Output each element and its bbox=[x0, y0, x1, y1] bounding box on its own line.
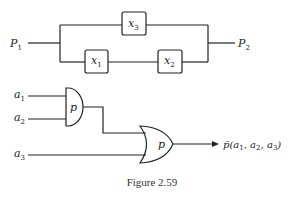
and-gate-label: p bbox=[70, 101, 77, 114]
figure-caption: Figure 2.59 bbox=[127, 176, 178, 188]
figure-canvas: P1 P2 x3 x1 x2 a1 a2 a3 p p p̄(a1, a2, a… bbox=[0, 0, 298, 198]
label-p1: P1 bbox=[9, 37, 22, 52]
label-a2: a2 bbox=[14, 111, 25, 126]
label-a3: a3 bbox=[14, 147, 25, 162]
arrow-head-icon bbox=[212, 141, 219, 147]
label-p2: P2 bbox=[237, 37, 250, 52]
and-to-or-wire bbox=[83, 107, 146, 133]
label-a1: a1 bbox=[14, 88, 25, 103]
label-x2: x2 bbox=[164, 54, 175, 69]
label-x3: x3 bbox=[128, 17, 139, 32]
or-gate-shape bbox=[140, 126, 173, 163]
label-x1: x1 bbox=[91, 54, 102, 69]
or-gate-label: p bbox=[158, 138, 165, 151]
output-expression: p̄(a1, a2, a3) bbox=[223, 139, 281, 152]
circuit-diagram: P1 P2 x3 x1 x2 a1 a2 a3 p p p̄(a1, a2, a… bbox=[0, 0, 298, 198]
